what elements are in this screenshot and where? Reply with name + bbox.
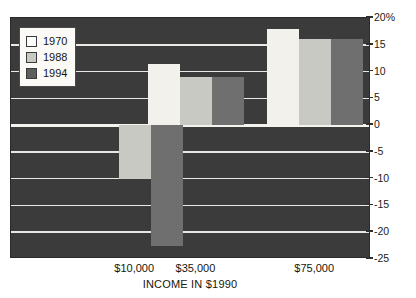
y-tick-mark — [366, 204, 373, 206]
legend-item-1994: 1994 — [26, 65, 67, 81]
legend-swatch-1970-icon — [26, 36, 37, 47]
legend-swatch-1994-icon — [26, 68, 37, 79]
x-tick-label: $75,000 — [294, 263, 334, 274]
legend-label-1994: 1994 — [43, 68, 67, 79]
y-tick-label: 5 — [374, 92, 380, 102]
bar-1970-75000 — [267, 29, 299, 125]
bar-chart: 20%151050-5-10-15-20-25 $10,000$35,000$7… — [0, 0, 416, 298]
bar-1994-35000 — [212, 77, 244, 125]
legend-label-1970: 1970 — [43, 36, 67, 47]
legend-label-1988: 1988 — [43, 52, 67, 63]
bar-1988-10000 — [119, 125, 151, 179]
y-tick-label: -20 — [374, 226, 389, 236]
gridline — [11, 151, 369, 153]
y-tick-label: 15 — [374, 39, 386, 49]
bar-1988-75000 — [299, 39, 331, 125]
chart-legend: 1970 1988 1994 — [19, 27, 76, 87]
legend-item-1970: 1970 — [26, 33, 67, 49]
y-tick-mark — [366, 230, 373, 232]
bar-1988-35000 — [180, 77, 212, 125]
y-tick-mark — [366, 43, 373, 45]
bar-1970-35000 — [148, 64, 180, 126]
legend-swatch-1988-icon — [26, 52, 37, 63]
gridline — [11, 178, 369, 180]
y-tick-mark — [366, 16, 373, 18]
y-tick-label: -15 — [374, 199, 389, 209]
y-tick-label: 0 — [374, 119, 380, 129]
y-tick-label: 20% — [374, 12, 395, 22]
legend-item-1988: 1988 — [26, 49, 67, 65]
y-tick-mark — [366, 123, 373, 125]
gridline — [11, 231, 369, 233]
y-tick-mark — [366, 150, 373, 152]
y-tick-label: -25 — [374, 253, 389, 263]
clipped-header-text — [8, 0, 128, 7]
x-axis-title: INCOME IN $1990 — [143, 279, 238, 290]
y-tick-mark — [366, 97, 373, 99]
y-tick-mark — [366, 177, 373, 179]
x-tick-label: $35,000 — [176, 263, 216, 274]
y-tick-mark — [366, 257, 373, 259]
y-tick-mark — [366, 70, 373, 72]
y-tick-label: 10 — [374, 66, 386, 76]
gridline — [11, 205, 369, 207]
bar-1994-75000 — [331, 39, 363, 125]
bar-1994-10000 — [151, 125, 183, 246]
x-tick-label: $10,000 — [114, 263, 154, 274]
y-tick-label: -10 — [374, 173, 389, 183]
y-tick-label: -5 — [374, 146, 383, 156]
